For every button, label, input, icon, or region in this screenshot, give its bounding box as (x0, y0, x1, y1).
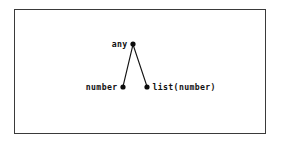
node-any (130, 41, 135, 46)
graph-edges (123, 45, 147, 87)
lattice-graph (0, 0, 281, 149)
node-number (120, 84, 125, 89)
node-label-any: any (112, 40, 128, 48)
node-list-number (144, 84, 149, 89)
edge-any-to-list-number (133, 45, 147, 87)
node-label-number: number (86, 83, 118, 91)
node-label-list-number: list(number) (153, 83, 216, 91)
figure-container: any number list(number) (0, 0, 281, 149)
edge-any-to-number (123, 45, 133, 87)
